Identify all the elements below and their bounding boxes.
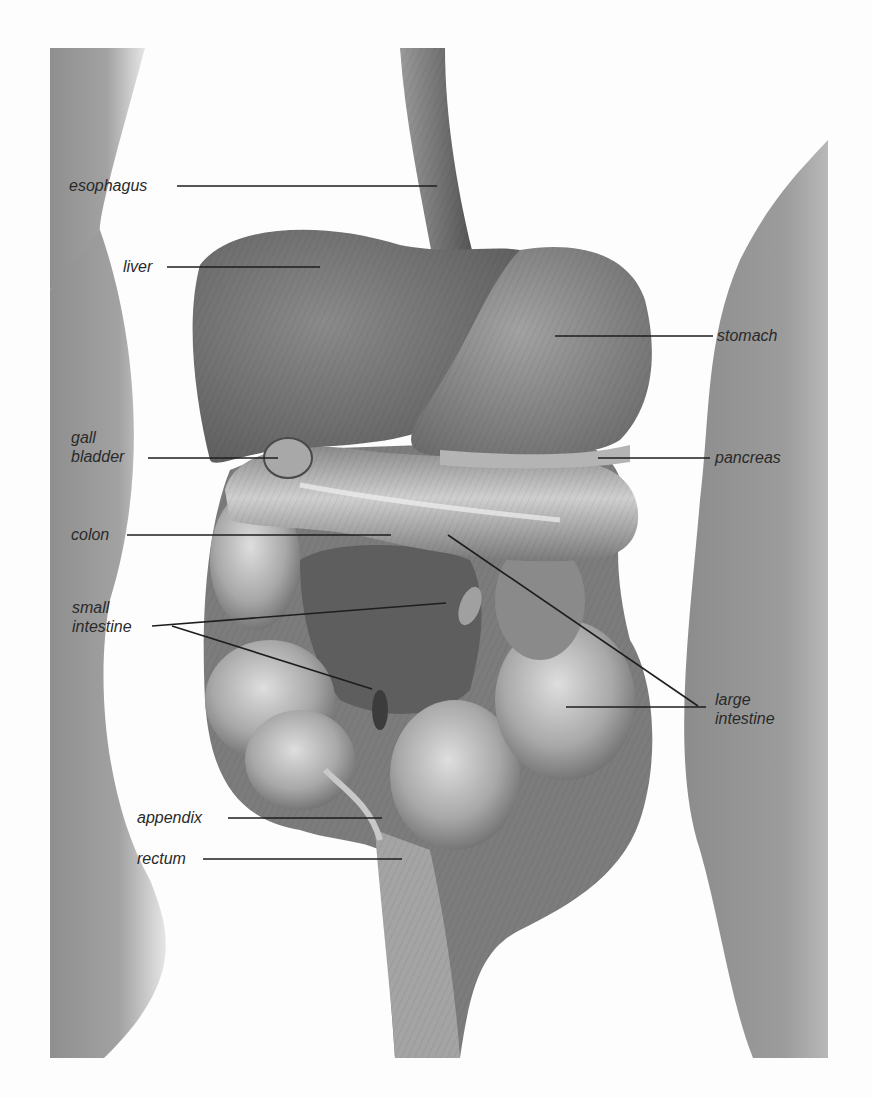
label-gall-bladder: gall bladder — [71, 428, 124, 466]
label-liver: liver — [123, 257, 152, 276]
label-esophagus: esophagus — [69, 176, 147, 195]
body-right-side — [684, 140, 828, 1058]
label-text-line1: small — [72, 598, 132, 617]
label-text-line2: intestine — [72, 617, 132, 636]
label-text-line1: large — [715, 690, 775, 709]
label-text-line2: bladder — [71, 447, 124, 466]
label-rectum: rectum — [137, 849, 186, 868]
anatomy-illustration — [0, 0, 872, 1098]
body-left-side — [50, 230, 166, 1058]
label-stomach: stomach — [717, 326, 777, 345]
label-colon: colon — [71, 525, 109, 544]
label-small-intestine: small intestine — [72, 598, 132, 636]
label-text: appendix — [137, 809, 202, 826]
label-large-intestine: large intestine — [715, 690, 775, 728]
label-text: rectum — [137, 850, 186, 867]
label-text: esophagus — [69, 177, 147, 194]
label-text: liver — [123, 258, 152, 275]
small-intestine-end-2 — [372, 690, 388, 730]
label-text: pancreas — [715, 449, 781, 466]
label-text-line1: gall — [71, 428, 124, 447]
label-text: colon — [71, 526, 109, 543]
digestive-system-diagram: esophagus liver stomach gall bladder pan… — [0, 0, 872, 1098]
label-appendix: appendix — [137, 808, 202, 827]
label-text-line2: intestine — [715, 709, 775, 728]
label-text: stomach — [717, 327, 777, 344]
label-pancreas: pancreas — [715, 448, 781, 467]
cecum-loop — [245, 710, 355, 810]
